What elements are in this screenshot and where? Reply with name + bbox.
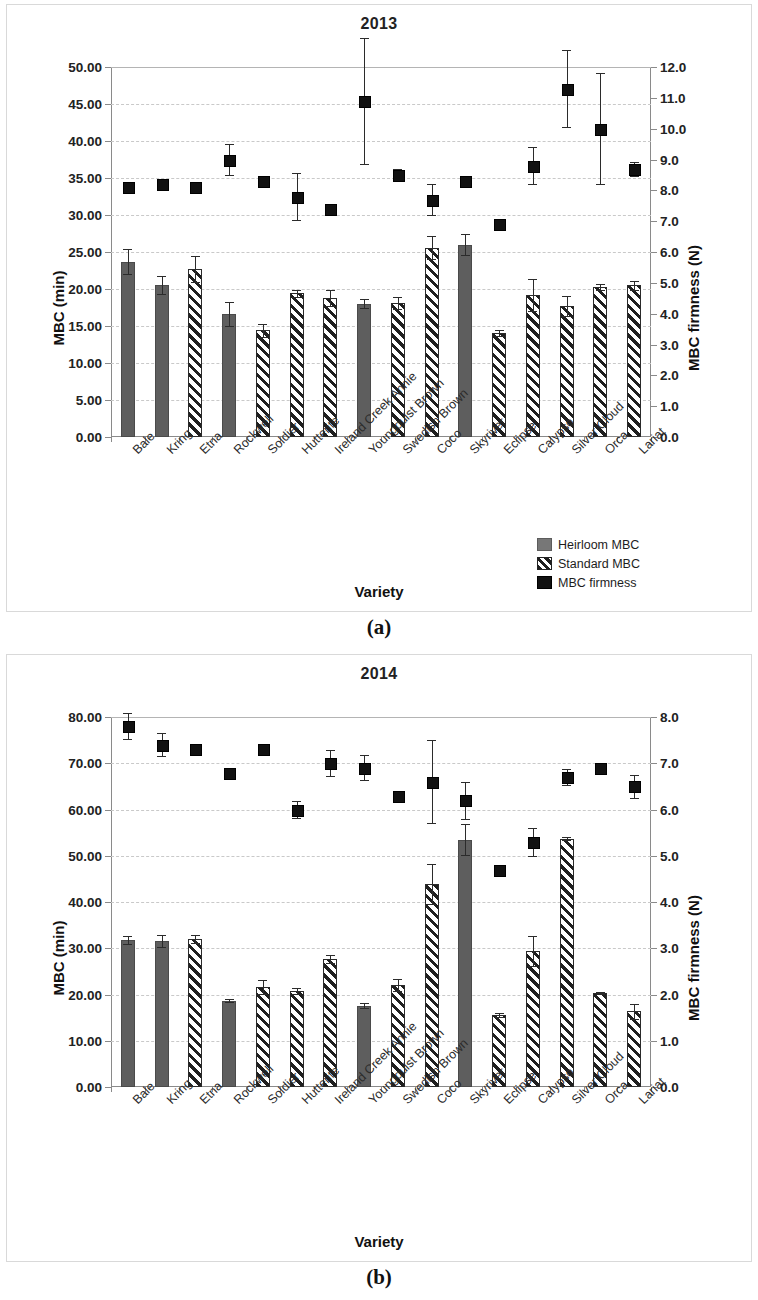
y-tick-mark-right [651, 1041, 657, 1042]
error-bar-cap [157, 276, 166, 277]
error-bar-cap [225, 999, 234, 1000]
y-tick-label-left: 30.00 [68, 941, 102, 956]
y-tick-mark-right [651, 345, 657, 346]
y-tick-mark-left [105, 178, 111, 179]
bar-heirloom [121, 940, 135, 1087]
figure-page: 2013 MBC (min) MBC firmness (N) 0.005.00… [0, 0, 758, 1300]
y-tick-label-left: 15.00 [68, 319, 102, 334]
y-tick-label-right: 5.0 [660, 848, 679, 863]
x-tick-mark [111, 1087, 112, 1092]
error-bar-cap [630, 281, 639, 282]
error-bar-cap [528, 828, 537, 829]
y-tick-label-right: 12.0 [660, 60, 686, 75]
gridline [111, 215, 651, 216]
chart-title-2014: 2014 [7, 665, 751, 683]
error-bar-cap [157, 756, 166, 757]
error-bar-cap [360, 164, 369, 165]
y-tick-label-right: 1.0 [660, 399, 679, 414]
error-bar-cap [292, 290, 301, 291]
y-tick-label-right: 2.0 [660, 368, 679, 383]
y-tick-label-right: 7.0 [660, 756, 679, 771]
error-bar-cap [258, 980, 267, 981]
y-tick-mark-right [651, 314, 657, 315]
error-bar [162, 935, 163, 947]
error-bar-cap [292, 994, 301, 995]
y-tick-mark-left [105, 104, 111, 105]
error-bar-cap [258, 994, 267, 995]
bar-standard [627, 285, 641, 437]
y-tick-label-left: 10.00 [68, 356, 102, 371]
firmness-marker [460, 795, 472, 807]
y-tick-mark-left [105, 717, 111, 718]
y-tick-label-left: 0.00 [76, 430, 102, 445]
x-tick-mark [111, 437, 112, 442]
legend-label: Heirloom MBC [558, 538, 639, 552]
error-bar [229, 302, 230, 326]
error-bar-cap [562, 840, 571, 841]
bar-standard [425, 884, 439, 1087]
error-bar [533, 279, 534, 312]
error-bar-cap [528, 311, 537, 312]
error-bar-cap [292, 297, 301, 298]
y-tick-label-left: 20.00 [68, 282, 102, 297]
error-bar-cap [596, 284, 605, 285]
error-bar [263, 980, 264, 994]
error-bar [432, 864, 433, 905]
error-bar-cap [495, 336, 504, 337]
error-bar-cap [427, 864, 436, 865]
y-tick-mark-left [105, 141, 111, 142]
error-bar-cap [562, 50, 571, 51]
error-bar [432, 236, 433, 258]
y-tick-mark-right [651, 98, 657, 99]
firmness-marker [325, 204, 337, 216]
y-tick-label-left: 80.00 [68, 710, 102, 725]
error-bar [634, 1004, 635, 1019]
y-tick-mark-right [651, 763, 657, 764]
y-tick-mark-right [651, 902, 657, 903]
error-bar-cap [596, 184, 605, 185]
firmness-marker [292, 805, 304, 817]
error-bar-cap [630, 775, 639, 776]
error-bar-cap [157, 733, 166, 734]
error-bar [398, 979, 399, 991]
error-bar-cap [225, 1002, 234, 1003]
legend-swatch-standard-icon [537, 557, 552, 570]
y-tick-label-right: 9.0 [660, 152, 679, 167]
y-tick-mark-right [651, 252, 657, 253]
y-tick-label-right: 6.0 [660, 245, 679, 260]
error-bar-cap [630, 1019, 639, 1020]
y-tick-mark-right [651, 948, 657, 949]
error-bar-cap [123, 713, 132, 714]
error-bar-cap [292, 173, 301, 174]
y-tick-mark-right [651, 67, 657, 68]
firmness-marker [562, 84, 574, 96]
bar-heirloom [155, 941, 169, 1087]
x-axis-title-b: Variety [7, 1233, 751, 1250]
y-tick-mark-left [105, 67, 111, 68]
error-bar [330, 955, 331, 962]
error-bar-cap [393, 991, 402, 992]
bar-heirloom [121, 262, 135, 437]
error-bar-cap [123, 944, 132, 945]
firmness-marker [292, 192, 304, 204]
legend-swatch-firmness-icon [537, 576, 552, 589]
error-bar [195, 935, 196, 942]
error-bar-cap [427, 236, 436, 237]
legend-item-heirloom: Heirloom MBC [537, 535, 640, 554]
y-tick-label-left: 20.00 [68, 987, 102, 1002]
y-tick-label-left: 5.00 [76, 393, 102, 408]
error-bar [162, 276, 163, 294]
bar-heirloom [155, 285, 169, 437]
firmness-marker [528, 161, 540, 173]
error-bar-cap [360, 1003, 369, 1004]
firmness-marker [157, 179, 169, 191]
bar-heirloom [458, 245, 472, 437]
error-bar-cap [123, 274, 132, 275]
y-tick-label-right: 6.0 [660, 802, 679, 817]
firmness-marker [123, 721, 135, 733]
error-bar-cap [495, 330, 504, 331]
y-axis-title-right-a: MBC firmness (N) [686, 245, 703, 371]
gridline [111, 252, 651, 253]
error-bar-cap [630, 798, 639, 799]
firmness-marker [258, 176, 270, 188]
